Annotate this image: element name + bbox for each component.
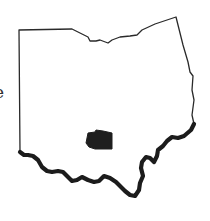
highlighted-county [86,130,112,149]
state-outline-map [0,0,210,221]
